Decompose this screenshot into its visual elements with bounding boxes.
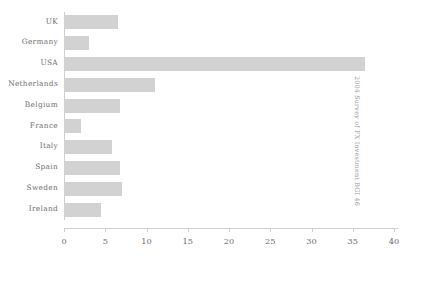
category-label: Belgium [25, 98, 58, 112]
bar-row: Ireland [64, 199, 394, 220]
x-axis-tick [64, 228, 65, 232]
bar [64, 99, 120, 113]
x-axis-tick-label: 25 [265, 236, 275, 246]
x-axis-tick-label: 35 [348, 236, 358, 246]
x-axis-tick-label: 30 [306, 236, 316, 246]
bar [64, 119, 81, 133]
bar-row: Belgium [64, 95, 394, 116]
bar-row: Italy [64, 137, 394, 158]
bar [64, 36, 89, 50]
x-axis-tick-label: 40 [389, 236, 399, 246]
bar-row: UK [64, 12, 394, 33]
category-label: Ireland [29, 202, 58, 216]
x-axis-tick [312, 228, 313, 232]
bar-chart-figure: UKGermanyUSANetherlandsBelgiumFranceItal… [0, 0, 426, 281]
bar [64, 57, 365, 71]
x-axis-tick-label: 20 [224, 236, 234, 246]
bar-row: Spain [64, 158, 394, 179]
x-axis-tick [105, 228, 106, 232]
bar-row: Sweden [64, 178, 394, 199]
bar-row: Germany [64, 33, 394, 54]
value-axis-line [64, 228, 398, 229]
bar [64, 203, 101, 217]
x-axis-tick-label: 15 [183, 236, 193, 246]
x-axis-tick [147, 228, 148, 232]
x-axis-tick [188, 228, 189, 232]
category-label: Germany [22, 35, 58, 49]
side-caption: 2004 Survey of FX Investment BGI 46 [353, 75, 361, 205]
category-label: Spain [35, 160, 58, 174]
bar-row: France [64, 116, 394, 137]
plot-area: UKGermanyUSANetherlandsBelgiumFranceItal… [64, 12, 394, 220]
category-label: Netherlands [8, 77, 58, 91]
category-label: Sweden [27, 181, 58, 195]
bar-row: Netherlands [64, 74, 394, 95]
category-label: Italy [40, 139, 58, 153]
x-axis-tick [270, 228, 271, 232]
x-axis-tick-label: 10 [141, 236, 151, 246]
bar [64, 140, 112, 154]
x-axis-tick-label: 0 [61, 236, 66, 246]
x-axis-tick-label: 5 [103, 236, 108, 246]
bar [64, 161, 120, 175]
x-axis-tick [394, 228, 395, 232]
category-label: USA [40, 56, 58, 70]
bar [64, 78, 155, 92]
category-label: France [30, 119, 58, 133]
x-axis-tick [229, 228, 230, 232]
bar [64, 15, 118, 29]
bar-row: USA [64, 54, 394, 75]
bar [64, 182, 122, 196]
x-axis-tick [353, 228, 354, 232]
category-label: UK [46, 15, 58, 29]
